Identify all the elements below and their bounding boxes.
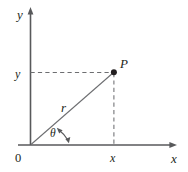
x-axis-label: x [170,151,177,166]
origin-label: 0 [15,151,21,165]
x-value-tick-label: x [109,151,116,165]
polar-coordinate-diagram: y x 0 P r θ y x [0,0,188,172]
point-p-marker [111,69,117,75]
y-axis-label: y [15,7,23,22]
point-p-label: P [119,56,128,71]
y-value-tick-label: y [14,67,21,81]
radius-segment [31,73,114,145]
theta-label: θ [50,127,56,139]
y-axis-arrowhead-icon [28,7,34,15]
diagram-canvas: y x 0 P r θ y x [0,0,188,172]
radius-label: r [61,100,67,115]
x-axis-arrowhead-icon [169,142,177,148]
